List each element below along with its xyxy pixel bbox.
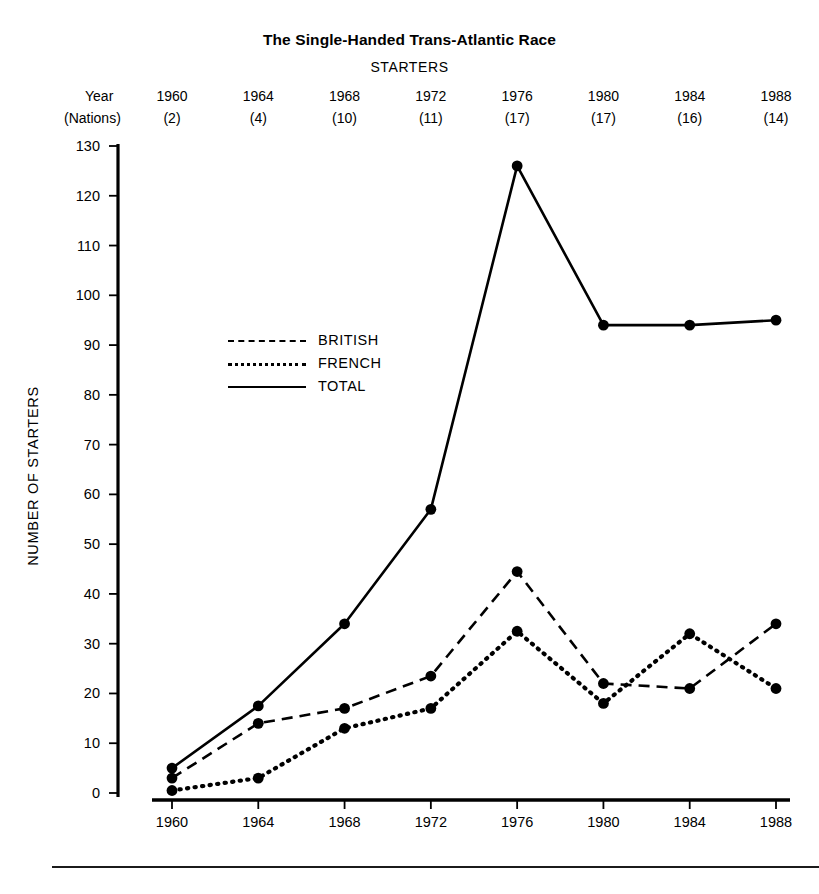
- x-tick-label-1980: 1980: [568, 815, 638, 830]
- data-point-total-1968: [339, 618, 350, 629]
- plot-area: NUMBER OF STARTERS 010203040506070809010…: [0, 0, 819, 894]
- y-tick-label-50: 50: [54, 537, 100, 552]
- y-tick-label-70: 70: [54, 438, 100, 453]
- y-tick-label-30: 30: [54, 637, 100, 652]
- x-tick-label-1976: 1976: [482, 815, 552, 830]
- legend-item-french[interactable]: FRENCH: [228, 351, 381, 374]
- chart-canvas: [0, 0, 819, 894]
- data-point-british-1988: [771, 618, 782, 629]
- x-tick-label-1984: 1984: [655, 815, 725, 830]
- y-tick-label-80: 80: [54, 388, 100, 403]
- legend-label-french: FRENCH: [318, 355, 381, 371]
- x-tick-label-1960: 1960: [137, 815, 207, 830]
- data-point-total-1960: [167, 763, 178, 774]
- data-point-french-1976: [512, 626, 523, 637]
- legend-label-total: TOTAL: [318, 378, 366, 394]
- y-tick-label-20: 20: [54, 686, 100, 701]
- series-line-total: [172, 166, 776, 768]
- legend-label-british: BRITISH: [318, 332, 379, 348]
- data-point-british-1960: [167, 773, 178, 784]
- data-point-british-1968: [339, 703, 350, 714]
- x-tick-label-1964: 1964: [223, 815, 293, 830]
- data-point-french-1968: [339, 723, 350, 734]
- y-tick-label-120: 120: [54, 189, 100, 204]
- y-tick-label-10: 10: [54, 736, 100, 751]
- legend-swatch-dashed-icon: [228, 334, 306, 346]
- x-tick-label-1968: 1968: [310, 815, 380, 830]
- data-point-french-1964: [253, 773, 264, 784]
- data-point-french-1972: [425, 703, 436, 714]
- chart-legend: BRITISHFRENCHTOTAL: [228, 328, 381, 397]
- y-tick-label-110: 110: [54, 239, 100, 254]
- data-point-british-1984: [684, 683, 695, 694]
- data-point-french-1960: [167, 785, 178, 796]
- data-point-french-1980: [598, 698, 609, 709]
- y-tick-label-90: 90: [54, 338, 100, 353]
- chart-page: The Single-Handed Trans-Atlantic Race ST…: [0, 0, 819, 894]
- legend-item-total[interactable]: TOTAL: [228, 374, 381, 397]
- bottom-divider: [52, 866, 819, 868]
- data-point-french-1988: [771, 683, 782, 694]
- data-point-total-1984: [684, 320, 695, 331]
- y-tick-label-0: 0: [54, 786, 100, 801]
- legend-swatch-dotted-icon: [228, 357, 306, 369]
- y-tick-label-130: 130: [54, 139, 100, 154]
- legend-item-british[interactable]: BRITISH: [228, 328, 381, 351]
- data-point-british-1980: [598, 678, 609, 689]
- legend-swatch-solid-icon: [228, 380, 306, 392]
- x-tick-label-1988: 1988: [741, 815, 811, 830]
- y-tick-label-40: 40: [54, 587, 100, 602]
- data-point-total-1964: [253, 701, 264, 712]
- x-tick-label-1972: 1972: [396, 815, 466, 830]
- data-point-total-1972: [425, 504, 436, 515]
- y-tick-label-60: 60: [54, 487, 100, 502]
- series-line-british: [172, 572, 776, 779]
- data-point-british-1976: [512, 566, 523, 577]
- data-point-total-1980: [598, 320, 609, 331]
- data-point-french-1984: [684, 628, 695, 639]
- y-tick-label-100: 100: [54, 288, 100, 303]
- data-point-british-1972: [425, 671, 436, 682]
- data-point-total-1988: [771, 315, 782, 326]
- data-point-total-1976: [512, 161, 523, 172]
- data-point-british-1964: [253, 718, 264, 729]
- series-line-french: [172, 631, 776, 790]
